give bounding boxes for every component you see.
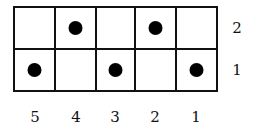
- dot-marker: [190, 63, 204, 77]
- col-label-3: 3: [110, 108, 120, 126]
- row-label-top: 2: [232, 19, 242, 37]
- dot-marker: [149, 21, 163, 35]
- col-label-1: 5: [30, 108, 40, 126]
- grid-cell: [135, 49, 176, 91]
- grid-cell: [14, 7, 55, 49]
- row-label-bottom: 1: [232, 61, 242, 79]
- grid-cells: [14, 7, 217, 91]
- grid-cell: [96, 7, 135, 49]
- dot-marker: [69, 21, 83, 35]
- col-label-4: 2: [150, 108, 160, 126]
- grid-cell: [55, 49, 96, 91]
- grid-diagram: 2 1 5 4 3 2 1: [0, 0, 256, 137]
- dot-marker: [109, 63, 123, 77]
- dot-marker: [28, 63, 42, 77]
- col-label-5: 1: [191, 108, 201, 126]
- col-label-2: 4: [71, 108, 81, 126]
- grid-cell: [176, 7, 217, 49]
